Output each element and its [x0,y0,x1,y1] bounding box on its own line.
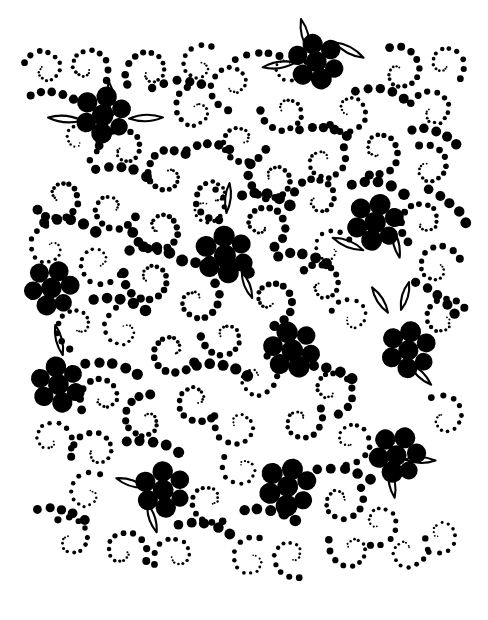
chain-dot [80,359,90,369]
spiral-dot [97,401,99,403]
spiral-dot [224,106,232,114]
spiral-dot [331,258,333,260]
spiral-dot [151,346,157,352]
chain-dot [352,468,363,479]
spiral-dot [451,396,457,402]
spiral-dot [172,184,177,189]
spiral-dot [127,129,133,135]
spiral-dot [29,247,34,252]
spiral-dot [320,232,325,237]
chain-dot [124,245,134,255]
spiral-dot [126,324,128,326]
spiral-dot [129,325,131,327]
spiral-dot [359,495,367,503]
spiral-dot [395,65,397,67]
spiral-dot [132,53,139,60]
spiral-dot [235,565,239,569]
spiral-dot [243,439,248,444]
spiral-dot [235,414,238,417]
spiral-dot [277,74,280,77]
chain-dot [335,367,346,378]
spiral-dot [325,208,330,213]
spiral-dot [167,169,169,171]
spiral-dot [152,183,158,189]
spiral-dot [196,204,199,207]
spiral-dot [134,134,140,140]
chain-dot [435,191,445,201]
spiral-dot [69,143,71,145]
spiral-dot [416,65,422,71]
chain-dot [65,214,76,225]
spiral-dot [313,198,315,200]
spiral-dot [37,430,41,434]
spiral-dot [167,214,172,219]
spiral-dot [130,530,136,536]
spiral-dot [41,66,43,68]
spiral-dot [421,556,426,561]
spiral-dot [222,326,225,329]
spiral-dot [151,226,154,229]
spiral-dot [348,385,355,392]
spiral-dot [418,167,421,170]
spiral-dot [359,323,362,326]
spiral-dot [269,242,279,252]
spiral-dot [357,539,360,542]
spiral-dot [288,430,293,435]
spiral-dot [102,405,105,408]
spiral-dot [234,441,239,446]
spiral-dot [369,522,371,524]
spiral-dot [106,195,110,199]
spiral-dot [406,565,410,569]
spiral-dot [425,229,428,232]
spiral-dot [426,163,428,165]
spiral-dot [422,250,428,256]
spiral-dot [126,551,128,553]
spiral-dot [251,463,254,466]
spiral-dot [451,527,455,531]
spiral-dot [414,74,420,80]
spiral-dot [345,297,350,302]
spiral-dot [273,281,279,287]
spiral-dot [372,509,376,513]
spiral-dot [42,446,45,449]
spiral-dot [198,293,200,295]
chain-dot [68,508,78,518]
spiral-dot [440,414,442,416]
spiral-dot [257,374,259,376]
spiral-dot [435,524,438,527]
chain-dot [91,165,100,174]
chain-dot [204,358,215,369]
spiral-dot [368,518,371,521]
spiral-dot [208,83,214,89]
spiral-dot [212,424,219,431]
spiral-dot [227,65,232,70]
spiral-dot [298,556,300,558]
spiral-dot [227,154,233,160]
spiral-dot [170,238,177,245]
spiral-dot [230,325,234,329]
spiral-dot [252,229,256,233]
spiral-dot [258,566,261,569]
spiral-dot [273,562,278,567]
spiral-dot [209,93,216,100]
chain-dot [451,139,461,149]
spiral-dot [187,312,193,318]
spiral-dot [333,171,339,177]
spiral-dot [89,452,91,454]
spiral-dot [328,229,333,234]
spiral-dot [47,421,52,426]
spiral-dot [41,77,44,80]
spiral-dot [315,383,319,387]
spiral-dot [332,392,334,394]
spiral-dot [107,279,113,285]
spiral-dot [102,252,105,255]
chain-dot [432,290,442,300]
spiral-dot [54,516,61,523]
spiral-dot [232,417,234,419]
spiral-dot [155,265,160,270]
spiral-dot [225,325,228,328]
spiral-dot [221,186,225,190]
spiral-dot [329,492,333,496]
spiral-dot [193,511,199,517]
spiral-dot [72,125,76,129]
